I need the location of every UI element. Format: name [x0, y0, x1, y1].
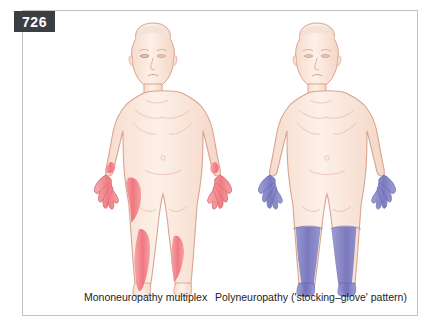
figure-number-badge: 726 [14, 11, 55, 32]
anatomy-illustration [22, 10, 418, 316]
figure-plate: 726 [0, 0, 441, 330]
right-figure-body [270, 91, 385, 294]
caption-row: Mononeuropathy multiplex Polyneuropathy … [22, 288, 418, 310]
right-figure-right-hand-affected [259, 175, 283, 209]
caption-mononeuropathy: Mononeuropathy multiplex [84, 290, 207, 304]
left-figure-body [106, 91, 221, 294]
right-figure-left-hand-affected [372, 175, 396, 209]
right-figure-head [293, 23, 341, 88]
left-figure-head [129, 23, 177, 88]
panel-left-mononeuropathy [95, 23, 232, 297]
caption-polyneuropathy: Polyneuropathy ('stocking–glove' pattern… [215, 290, 407, 304]
left-figure-right-hand-affected [95, 175, 119, 209]
left-figure-left-hand-affected [208, 175, 232, 209]
panel-right-polyneuropathy [259, 23, 396, 297]
